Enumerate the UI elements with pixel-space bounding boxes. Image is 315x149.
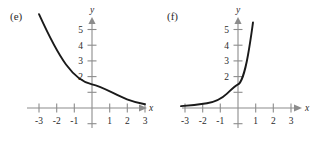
x-ticklabel-3-f: 3 — [289, 116, 294, 126]
y-ticklabel-4-f: 4 — [224, 41, 229, 51]
x-ticklabel-1-e: 1 — [107, 116, 112, 126]
x-ticklabel-1-f: 1 — [253, 116, 258, 126]
exponential-growth-curve — [181, 23, 253, 107]
panel-e-plot: -3 -2 -1 1 2 3 2 3 4 5 x y — [0, 0, 157, 149]
x-ticklabel-neg1-f: -1 — [216, 116, 224, 126]
y-axis-arrow-f — [234, 17, 241, 24]
x-axis-label-e: x — [148, 103, 154, 113]
x-ticklabel-neg2-f: -2 — [199, 116, 207, 126]
x-axis-arrow-f — [294, 104, 302, 111]
x-ticklabel-3-e: 3 — [143, 116, 148, 126]
x-axis-label-f: x — [304, 103, 310, 113]
panel-e: (e) — [0, 0, 157, 149]
x-ticklabel-neg3-e: -3 — [35, 116, 43, 126]
x-ticklabel-neg3-f: -3 — [181, 116, 189, 126]
y-ticklabel-2-f: 2 — [224, 72, 229, 82]
figure-sheet: (e) — [0, 0, 315, 149]
x-ticklabel-2-f: 2 — [271, 116, 276, 126]
y-axis-label-e: y — [89, 5, 95, 15]
y-ticklabel-5-e: 5 — [78, 25, 83, 35]
y-ticklabel-4-e: 4 — [78, 41, 83, 51]
x-ticklabel-neg2-e: -2 — [53, 116, 61, 126]
y-ticklabel-3-e: 3 — [78, 56, 83, 66]
x-axis-arrow-e — [139, 104, 147, 111]
y-ticklabel-5-f: 5 — [224, 25, 229, 35]
x-ticklabel-neg1-e: -1 — [70, 116, 78, 126]
y-axis-label-f: y — [235, 5, 241, 15]
y-axis-arrow-e — [88, 17, 95, 24]
x-ticklabel-2-e: 2 — [125, 116, 130, 126]
panel-f: (f) — [157, 0, 314, 149]
y-ticklabel-3-f: 3 — [224, 56, 229, 66]
panel-f-plot: -3 -2 -1 1 2 3 2 3 4 5 x y — [157, 0, 314, 149]
